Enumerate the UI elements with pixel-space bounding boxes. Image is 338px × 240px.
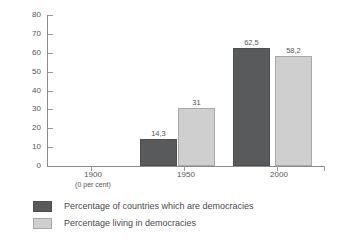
legend-item-countries: Percentage of countries which are democr… <box>33 198 254 215</box>
y-tick-60 <box>48 53 53 54</box>
bar-chart: 80 70 60 50 40 30 20 10 0 <box>0 0 338 240</box>
y-tick-20 <box>48 128 53 129</box>
x-axis-label-2000-text: 2000 <box>270 170 288 179</box>
x-axis-label-1900-text: 1900 <box>84 170 102 179</box>
bar-value-1950-population: 31 <box>192 99 200 107</box>
y-tick-label-80: 80 <box>32 11 41 19</box>
bar-value-1950-countries: 14,3 <box>151 130 166 138</box>
y-tick-10 <box>48 147 53 148</box>
y-tick-50 <box>48 72 53 73</box>
y-tick-label-0: 0 <box>37 162 41 170</box>
x-axis-label-1900: 1900 (0 per cent) <box>75 170 111 189</box>
x-axis-label-1950-text: 1950 <box>177 170 195 179</box>
x-tick-end <box>324 166 325 171</box>
chart-legend: Percentage of countries which are democr… <box>33 198 254 232</box>
y-tick-label-20: 20 <box>32 124 41 132</box>
y-tick-label-70: 70 <box>32 30 41 38</box>
y-tick-30 <box>48 109 53 110</box>
y-tick-label-40: 40 <box>32 87 41 95</box>
legend-swatch-population-icon <box>33 218 52 229</box>
bar-2000-population: 58,2 <box>275 56 312 166</box>
x-axis-line <box>47 166 325 167</box>
y-tick-label-60: 60 <box>32 49 41 57</box>
y-tick-80 <box>48 15 53 16</box>
y-tick-40 <box>48 91 53 92</box>
y-tick-label-10: 10 <box>32 143 41 151</box>
legend-label-countries: Percentage of countries which are democr… <box>64 201 254 212</box>
bar-2000-countries: 62,5 <box>233 48 270 166</box>
legend-item-population: Percentage living in democracies <box>33 215 254 232</box>
x-axis-label-2000: 2000 <box>270 170 288 180</box>
legend-swatch-countries-icon <box>33 201 52 212</box>
legend-label-population: Percentage living in democracies <box>64 218 196 229</box>
bar-1950-countries: 14,3 <box>140 139 177 166</box>
bar-value-2000-countries: 62,5 <box>244 39 259 47</box>
plot-area: 80 70 60 50 40 30 20 10 0 <box>47 15 325 166</box>
y-tick-label-50: 50 <box>32 68 41 76</box>
y-tick-label-30: 30 <box>32 105 41 113</box>
bar-1950-population: 31 <box>178 108 215 167</box>
bar-value-2000-population: 58,2 <box>286 47 301 55</box>
x-axis-label-1950: 1950 <box>177 170 195 180</box>
y-tick-70 <box>48 34 53 35</box>
x-axis-label-1900-sublabel: (0 per cent) <box>75 180 111 189</box>
